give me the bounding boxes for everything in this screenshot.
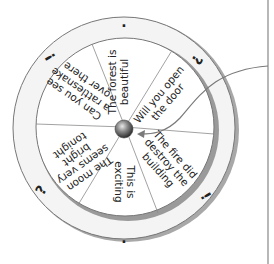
mark-bottom: .	[121, 230, 126, 246]
sentence-wheel-diagram: The forest isbeautifulWill you openthe d…	[0, 0, 274, 264]
segment-s4-text: This isexciting	[113, 161, 137, 202]
mark-top: .	[121, 14, 126, 30]
center-pivot-knob[interactable]	[115, 120, 133, 138]
